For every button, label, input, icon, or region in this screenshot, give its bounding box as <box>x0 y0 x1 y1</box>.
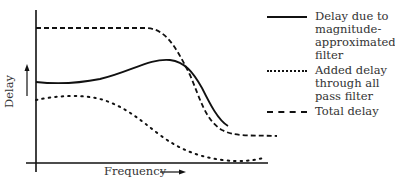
legend-item-total-delay: Total delay <box>250 105 395 118</box>
x-axis-label: Frequency <box>104 164 166 178</box>
legend-label-line: Total delay <box>315 105 395 118</box>
solid-line-swatch-icon <box>267 16 307 18</box>
legend-label-line: pass filter <box>315 90 395 103</box>
series-all-pass-added-delay <box>36 96 263 161</box>
y-axis-label: Delay <box>2 75 16 108</box>
legend-item-magnitude-approximated: Delay due to magnitude- approximated fil… <box>250 10 395 62</box>
legend-label-line: Added delay through all <box>315 64 395 90</box>
y-arrowhead-icon <box>25 64 30 71</box>
dotted-line-swatch-icon <box>267 70 307 72</box>
dashed-line-swatch-icon <box>267 111 307 113</box>
legend-label-line: approximated filter <box>315 36 395 62</box>
series-magnitude-approximated-delay <box>36 60 228 126</box>
legend-label-line: Delay due to magnitude- <box>315 10 395 36</box>
legend: Delay due to magnitude- approximated fil… <box>250 10 395 119</box>
x-arrowhead-icon <box>179 170 186 175</box>
legend-item-all-pass: Added delay through all pass filter <box>250 64 395 103</box>
